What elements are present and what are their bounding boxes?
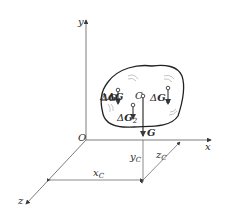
resultant-label: G — [147, 127, 156, 138]
centroid-label: C — [135, 90, 143, 101]
zc-label: zC — [155, 149, 167, 162]
y-axis-label: y — [77, 16, 84, 27]
xc-label: xC — [93, 167, 105, 180]
element-2-label: ΔG2 — [116, 112, 138, 125]
center-of-gravity-diagram: ΔΔG O y x z C G ΔG1 ΔG2 ΔGn xC yC zC — [0, 0, 229, 218]
origin-label: O — [78, 132, 86, 143]
z-axis-label: z — [17, 195, 24, 206]
z-axis — [26, 140, 86, 204]
x-axis-label: x — [205, 141, 211, 152]
yc-label: yC — [129, 151, 142, 164]
